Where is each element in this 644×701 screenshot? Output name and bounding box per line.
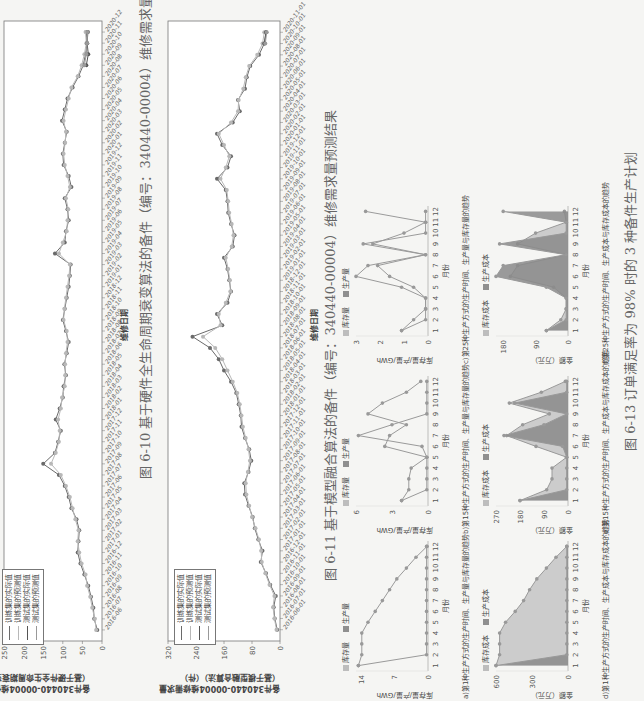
- y-tick-label: 2: [377, 340, 385, 344]
- data-point: [565, 555, 569, 559]
- y-tick-label: 14: [358, 674, 366, 683]
- series-line: [373, 211, 426, 330]
- x-tick-label: 11: [432, 553, 440, 562]
- x-tick-label: 11: [432, 388, 440, 397]
- data-point: [425, 631, 429, 635]
- data-point: [565, 599, 569, 603]
- x-tick-label: 2: [432, 653, 440, 657]
- x-tick-label: 5: [572, 455, 580, 459]
- y-tick-label: 0: [565, 510, 573, 514]
- chart-panel-a: 库存量生产量库存量/产量/GWh0714123456789101112月份a)第…: [338, 531, 478, 701]
- x-tick-label: 8: [572, 423, 580, 427]
- figure-caption: 图 6-13 订单满足率为 98% 时的 3 种备件生产计划: [620, 152, 639, 451]
- legend-swatch-icon: [483, 665, 489, 671]
- data-point: [565, 577, 569, 581]
- legend-swatch-icon: [483, 284, 489, 290]
- x-tick-label: 9: [572, 577, 580, 581]
- y-tick-label: 180: [517, 510, 525, 523]
- x-tick-label: 5: [572, 620, 580, 624]
- legend-swatch-icon: [343, 500, 349, 506]
- data-point: [548, 412, 552, 416]
- y-tick-label: 100: [60, 646, 68, 659]
- x-tick-label: 3: [572, 477, 580, 481]
- x-tick-label: 7: [432, 598, 440, 602]
- data-point: [501, 210, 505, 214]
- legend-swatch-icon: [27, 626, 28, 640]
- data-point: [407, 477, 411, 481]
- data-point: [565, 620, 569, 624]
- y-tick-label: 90: [541, 510, 549, 519]
- data-point: [550, 466, 554, 470]
- y-tick-label: 270: [493, 510, 501, 523]
- x-axis-title: 月份: [441, 434, 450, 448]
- x-axis-title: 月份: [441, 599, 450, 613]
- chart-svg: 0714123456789101112月份: [350, 531, 475, 701]
- chart-legend: 库存量生产量: [340, 603, 350, 671]
- x-tick-label: 12: [572, 207, 580, 216]
- x-tick-label: 5: [432, 285, 440, 289]
- line-chart-6-10: 0501001502002502016-062016-072016-082016…: [0, 1, 130, 661]
- data-point: [354, 275, 358, 279]
- data-point: [425, 599, 429, 603]
- data-point: [425, 620, 429, 624]
- data-point: [400, 329, 404, 333]
- legend-swatch-icon: [199, 626, 200, 640]
- x-tick-label: 2: [572, 318, 580, 322]
- data-point: [565, 631, 569, 635]
- data-point: [420, 445, 424, 449]
- chart-panel-e: 库存成本生产成本金额（万元）090180270123456789101112月份…: [478, 366, 618, 536]
- x-tick-label: 1: [572, 328, 580, 332]
- x-tick-label: 2: [572, 488, 580, 492]
- legend-item: 训练集的预测值: [186, 574, 195, 640]
- y-tick-label: 180: [500, 340, 508, 353]
- x-tick-label: 8: [432, 253, 440, 257]
- legend-item: 测试集的实际值: [195, 574, 204, 640]
- data-point: [565, 380, 569, 384]
- legend-swatch-icon: [18, 626, 19, 640]
- data-point: [425, 380, 429, 384]
- legend-swatch-icon: [343, 626, 349, 632]
- legend-item: 库存量: [340, 307, 350, 336]
- y-tick-label: 160: [221, 646, 229, 659]
- legend-item: 库存量: [340, 477, 350, 506]
- x-tick-label: 5: [432, 620, 440, 624]
- chart-legend: 训练集的实际值训练集的预测值测试集的实际值测试集的预测值: [2, 569, 44, 645]
- x-tick-label: 4: [432, 630, 440, 635]
- legend-swatch-icon: [343, 461, 349, 467]
- data-point: [390, 423, 394, 427]
- legend-swatch-icon: [36, 626, 37, 640]
- legend-item: 库存量: [340, 642, 350, 671]
- y-axis-title: 备件340440-00004维修需求量 （基于模型融合算法）（件）: [159, 673, 280, 695]
- x-tick-label: 1: [572, 498, 580, 502]
- x-tick-label: 1: [432, 328, 440, 332]
- y-tick-label: 150: [40, 646, 48, 659]
- data-point: [361, 242, 365, 246]
- data-point: [424, 220, 428, 224]
- x-tick-label: 10: [572, 229, 580, 238]
- data-point: [565, 642, 569, 646]
- x-tick-label: 2: [432, 318, 440, 322]
- chart-legend: 库存成本生产成本: [480, 254, 490, 336]
- chart-panel-d: 库存成本生产成本金额（万元）0300600123456789101112月份d)…: [478, 531, 618, 701]
- data-point: [561, 445, 565, 449]
- data-point: [400, 499, 404, 503]
- data-point: [412, 318, 416, 322]
- x-tick-label: 7: [572, 598, 580, 602]
- data-point: [542, 423, 546, 427]
- chart-svg: 036123456789101112月份: [350, 366, 475, 536]
- data-point: [564, 296, 568, 300]
- x-tick-label: 10: [572, 564, 580, 573]
- x-tick-label: 6: [572, 609, 580, 614]
- x-tick-label: 9: [572, 242, 580, 246]
- data-point: [425, 545, 429, 549]
- chart-svg: 0123123456789101112月份: [350, 196, 475, 366]
- x-tick-label: 9: [432, 412, 440, 416]
- data-point: [424, 253, 428, 257]
- data-point: [425, 466, 429, 470]
- legend-item: 库存成本: [480, 300, 490, 336]
- data-point: [545, 285, 549, 289]
- y-tick-label: 0: [565, 675, 573, 679]
- data-point: [508, 401, 512, 405]
- data-point: [366, 264, 370, 268]
- legend-item: 训练集的预测值: [14, 574, 23, 640]
